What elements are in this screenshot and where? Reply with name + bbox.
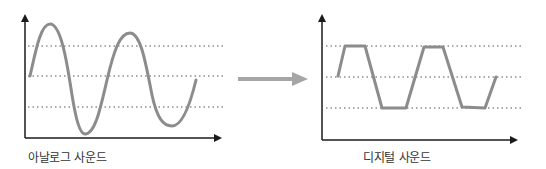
analog-chart bbox=[25, 16, 226, 138]
analog-to-digital-diagram bbox=[0, 0, 546, 169]
digital-chart bbox=[322, 16, 522, 140]
analog-grid-lines bbox=[28, 46, 226, 107]
transition-arrow bbox=[238, 72, 308, 86]
analog-wave bbox=[30, 24, 196, 134]
analog-sound-label: 아날로그 사운드 bbox=[28, 148, 106, 165]
digital-grid-lines bbox=[326, 46, 522, 108]
digital-sound-label: 디지털 사운드 bbox=[363, 148, 431, 165]
